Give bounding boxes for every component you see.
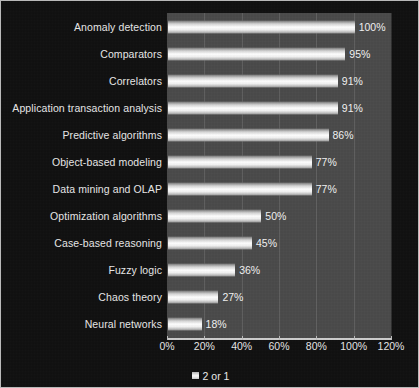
bar-row: Predictive algorithms86% <box>1 121 419 148</box>
bar <box>168 74 338 87</box>
legend-label: 2 or 1 <box>203 370 230 382</box>
category-label: Chaos theory <box>98 291 162 303</box>
bar-value-label: 18% <box>206 318 227 330</box>
category-label: Comparators <box>100 48 162 60</box>
bar-rows: Anomaly detection100%Comparators95%Corre… <box>1 13 419 338</box>
bar <box>168 291 218 304</box>
x-tick-label: 80% <box>306 340 327 352</box>
bar <box>168 318 202 331</box>
bar-row: Anomaly detection100% <box>1 13 419 40</box>
bar-row: Chaos theory27% <box>1 284 419 311</box>
bar-value-label: 100% <box>359 21 386 33</box>
legend-entry: 2 or 1 <box>192 370 230 382</box>
bar <box>168 101 338 114</box>
x-tick-label: 60% <box>268 340 289 352</box>
bar-value-label: 95% <box>349 48 370 60</box>
bar <box>168 20 355 33</box>
bar-value-label: 77% <box>316 156 337 168</box>
x-axis-ticks: 0%20%40%60%80%100%120% <box>1 340 419 356</box>
bar-value-label: 86% <box>333 129 354 141</box>
bar-row: Object-based modeling77% <box>1 148 419 175</box>
legend-swatch-icon <box>192 372 199 379</box>
category-label: Fuzzy logic <box>108 264 162 276</box>
bar-row: Data mining and OLAP77% <box>1 176 419 203</box>
bar <box>168 210 261 223</box>
bar-value-label: 36% <box>239 264 260 276</box>
bar <box>168 155 312 168</box>
bar-value-label: 27% <box>222 291 243 303</box>
bar-value-label: 77% <box>316 183 337 195</box>
bar <box>168 128 329 141</box>
category-label: Anomaly detection <box>74 21 162 33</box>
bar-value-label: 45% <box>256 237 277 249</box>
bar-row: Comparators95% <box>1 40 419 67</box>
bar-value-label: 91% <box>342 75 363 87</box>
category-label: Case-based reasoning <box>54 237 162 249</box>
category-label: Predictive algorithms <box>62 129 162 141</box>
category-label: Optimization algorithms <box>50 210 162 222</box>
category-label: Correlators <box>109 75 162 87</box>
category-label: Application transaction analysis <box>12 102 162 114</box>
chart-figure: Anomaly detection100%Comparators95%Corre… <box>0 0 419 388</box>
bar-row: Neural networks18% <box>1 311 419 338</box>
category-label: Object-based modeling <box>52 156 162 168</box>
bar <box>168 237 252 250</box>
x-tick-label: 40% <box>231 340 252 352</box>
x-tick-label: 0% <box>159 340 174 352</box>
x-tick-label: 20% <box>194 340 215 352</box>
category-label: Data mining and OLAP <box>53 183 162 195</box>
bar-row: Case-based reasoning45% <box>1 230 419 257</box>
x-tick-label: 120% <box>378 340 405 352</box>
bar <box>168 183 312 196</box>
bar-row: Application transaction analysis91% <box>1 94 419 121</box>
bar-row: Optimization algorithms50% <box>1 203 419 230</box>
bar-row: Fuzzy logic36% <box>1 257 419 284</box>
bar <box>168 47 345 60</box>
category-label: Neural networks <box>85 318 162 330</box>
bar <box>168 264 235 277</box>
bar-row: Correlators91% <box>1 67 419 94</box>
x-tick-label: 100% <box>340 340 367 352</box>
bar-value-label: 91% <box>342 102 363 114</box>
bar-value-label: 50% <box>265 210 286 222</box>
chart-legend: 2 or 1 <box>1 365 419 383</box>
